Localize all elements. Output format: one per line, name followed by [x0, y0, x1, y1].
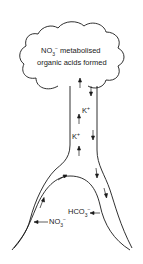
shoot-label-line2: organic acids formed	[37, 58, 107, 67]
stem-k-label-lower: K+	[72, 132, 80, 141]
stem-k-label-upper: K+	[82, 106, 90, 115]
metabolised-text: metabolised	[58, 46, 101, 55]
superscript: +	[77, 131, 80, 137]
subscript: 3	[85, 212, 88, 218]
shoot-label-line1: NO3− metabolised	[41, 46, 100, 55]
ion-no3-text: NO	[49, 217, 60, 226]
shoot-canopy-outline	[20, 22, 124, 89]
ion-hco3-text: HCO	[68, 207, 85, 216]
root-no3-uptake-label: NO3−	[49, 217, 66, 226]
root-hco3-release-label: HCO3−	[68, 207, 90, 216]
subscript: 3	[60, 222, 63, 228]
superscript: +	[87, 105, 90, 111]
stem-right-edge	[97, 86, 132, 248]
superscript: −	[63, 216, 66, 222]
arrow-icon-group	[34, 78, 108, 224]
superscript: −	[87, 206, 90, 212]
subscript: 3	[52, 51, 55, 57]
ion-no3-text: NO	[41, 46, 52, 55]
